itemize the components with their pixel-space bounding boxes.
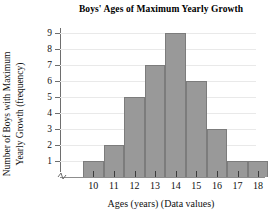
y-tick-mark [55,81,60,82]
x-tick-mark [238,171,239,177]
x-tick-label: 13 [144,180,166,191]
x-tick-label: 10 [82,180,104,191]
y-axis-title: Number of Boys with Maximum Yearly Growt… [1,39,27,189]
histogram-chart: Boys' Ages of Maximum Yearly Growth Numb… [0,0,272,221]
y-tick-mark [55,49,60,50]
y-tick-label: 6 [39,77,52,86]
x-tick-mark [114,171,115,177]
x-tick-mark [93,171,94,177]
y-tick-label: 1 [39,157,52,166]
gridline [60,49,256,50]
y-tick-mark [55,145,60,146]
y-tick-mark [55,129,60,130]
y-tick-mark [55,161,60,162]
x-tick-label: 15 [185,180,207,191]
x-tick-label: 11 [103,180,125,191]
histogram-bar [124,97,145,177]
chart-title: Boys' Ages of Maximum Yearly Growth [52,4,270,15]
x-tick-label: 12 [124,180,146,191]
x-tick-label: 17 [227,180,249,191]
x-tick-mark [155,171,156,177]
y-tick-label: 2 [39,141,52,150]
y-tick-mark [55,97,60,98]
y-tick-mark [55,33,60,34]
x-tick-mark [135,171,136,177]
x-axis-title: Ages (years) (Data values) [52,198,270,209]
y-tick-label: 7 [39,61,52,70]
plot-area: 123456789 [60,28,256,178]
x-tick-mark [176,171,177,177]
y-tick-mark [55,65,60,66]
y-tick-label: 5 [39,93,52,102]
histogram-bar [186,81,207,177]
y-tick-label: 3 [39,125,52,134]
x-tick-label: 16 [206,180,228,191]
y-tick-mark [55,113,60,114]
x-tick-mark [196,171,197,177]
y-tick-label: 8 [39,45,52,54]
y-tick-label: 9 [39,29,52,38]
x-tick-mark [258,171,259,177]
x-tick-label: 14 [165,180,187,191]
histogram-bar [145,65,166,177]
x-tick-label: 18 [247,180,269,191]
histogram-bar [207,129,228,177]
x-tick-mark [217,171,218,177]
y-tick-label: 4 [39,109,52,118]
histogram-bar [165,33,186,177]
gridline [60,33,256,34]
